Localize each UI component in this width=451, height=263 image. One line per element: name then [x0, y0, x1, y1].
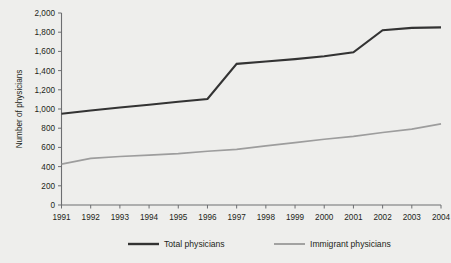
line-chart: Number of physicians 02004006008001,0001…	[0, 0, 451, 263]
y-tick-label: 1,400	[35, 67, 56, 76]
y-tick-label: 400	[41, 163, 55, 172]
x-axis-ticks: 1991199219931994199519961997199819992000…	[52, 205, 450, 222]
series-lines	[62, 27, 442, 164]
x-tick-label: 2000	[315, 213, 334, 222]
legend-label-total-physicians: Total physicians	[164, 239, 225, 249]
x-tick-label: 2002	[374, 213, 393, 222]
x-tick-label: 2001	[344, 213, 363, 222]
x-tick-label: 1994	[140, 213, 159, 222]
y-axis-title: Number of physicians	[15, 70, 24, 149]
x-tick-label: 1993	[111, 213, 130, 222]
y-tick-label: 1,600	[35, 47, 56, 56]
x-tick-label: 2004	[432, 213, 451, 222]
y-axis-ticks: 02004006008001,0001,2001,4001,6001,8002,…	[35, 9, 62, 210]
y-axis-title-text: Number of physicians	[15, 70, 24, 149]
legend-label-immigrant-physicians: Immigrant physicians	[310, 239, 391, 249]
axis-lines	[62, 13, 442, 205]
y-tick-label: 1,200	[35, 86, 56, 95]
y-tick-label: 800	[41, 124, 55, 133]
series-line-immigrant-physicians	[62, 124, 442, 164]
y-tick-label: 200	[41, 182, 55, 191]
series-line-total-physicians	[62, 27, 442, 113]
y-tick-label: 1,000	[35, 105, 56, 114]
y-tick-label: 2,000	[35, 9, 56, 18]
x-tick-label: 2003	[403, 213, 422, 222]
x-tick-label: 1997	[228, 213, 247, 222]
y-tick-label: 1,800	[35, 28, 56, 37]
y-tick-label: 600	[41, 143, 55, 152]
x-tick-label: 1995	[169, 213, 188, 222]
y-tick-label: 0	[50, 201, 55, 210]
x-tick-label: 1992	[82, 213, 101, 222]
x-tick-label: 1991	[52, 213, 71, 222]
x-tick-label: 1998	[257, 213, 276, 222]
x-tick-label: 1999	[286, 213, 305, 222]
x-tick-label: 1996	[198, 213, 217, 222]
chart-legend: Total physiciansImmigrant physicians	[128, 239, 391, 249]
chart-figure: Number of physicians 02004006008001,0001…	[0, 0, 451, 263]
